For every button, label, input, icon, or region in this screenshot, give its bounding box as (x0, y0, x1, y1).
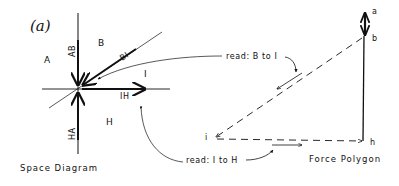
member-label-ab: AB (68, 45, 77, 57)
region-label-b: B (98, 38, 105, 48)
annotation-curve-b-to-i (98, 56, 222, 79)
force-polygon-caption: Force Polygon (309, 154, 381, 164)
point-label-i: i (205, 133, 208, 142)
polygon-line-b-h (363, 36, 364, 141)
region-label-a: A (44, 55, 51, 65)
polygon-vector-i-h (217, 139, 362, 141)
diagram-canvas: (a) A B I H AB HA BI IH Space Diagram re… (0, 0, 399, 186)
space-diagram-caption: Space Diagram (20, 163, 98, 173)
annotation-curve-i-to-h (141, 106, 183, 162)
member-label-ih: IH (120, 92, 130, 101)
region-label-i: I (144, 69, 147, 79)
point-label-a: a (372, 7, 378, 16)
member-label-ha: HA (68, 127, 77, 140)
annotation-curl-b-to-i (285, 57, 296, 72)
force-polygon: a b i h Force Polygon (205, 7, 381, 164)
point-label-h: h (370, 138, 376, 147)
region-label-h: H (106, 117, 113, 127)
point-label-b: b (372, 34, 378, 43)
panel-label: (a) (30, 17, 51, 35)
annotations: read: B to I read: I to H (98, 52, 302, 165)
annotation-curl-i-to-h (246, 150, 273, 160)
space-diagram: A B I H AB HA BI IH Space Diagram (20, 13, 170, 173)
annotation-read-i-to-h: read: I to H (186, 156, 238, 165)
annotation-read-b-to-i: read: B to I (226, 52, 277, 61)
